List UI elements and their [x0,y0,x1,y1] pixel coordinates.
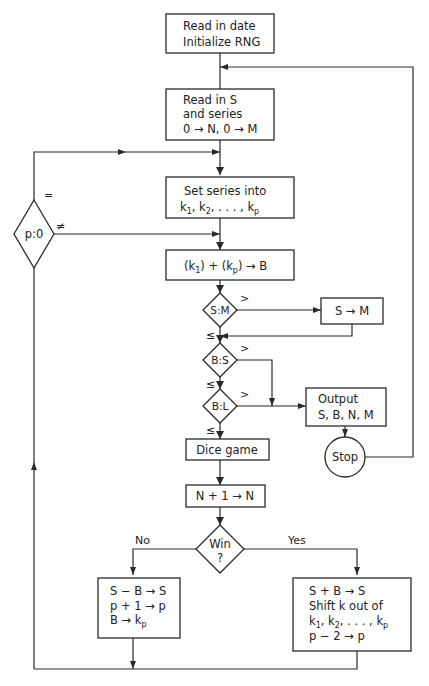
output-box: Output S, B, N, M [306,388,386,426]
svg-text:Read in date: Read in date [183,19,256,33]
dice-game-box: Dice game [186,439,269,460]
stop-terminal: Stop [325,437,365,477]
bet-box: (k1) + (kp) → B [166,250,294,280]
svg-text:B:S: B:S [211,354,229,366]
svg-text:B → kp: B → kp [110,613,147,629]
svg-text:Read in S: Read in S [183,93,237,107]
svg-text:>: > [240,342,249,355]
svg-text:S:M: S:M [210,304,229,316]
svg-text:k1, k2, . . . , kp: k1, k2, . . . , kp [309,614,388,630]
svg-text:p + 1 → p: p + 1 → p [110,599,166,613]
svg-text:S − B → S: S − B → S [110,584,166,598]
svg-text:>: > [240,292,249,305]
p-test-diamond: p:0 = ≠ [14,189,65,268]
svg-text:Yes: Yes [287,534,306,547]
svg-text:S + B → S: S + B → S [309,584,365,598]
svg-text:=: = [44,189,53,202]
svg-text:≤: ≤ [206,329,215,342]
s-to-m-box: S → M [321,298,383,324]
svg-text:0 → N, 0 → M: 0 → N, 0 → M [183,122,257,136]
svg-text:≠: ≠ [56,220,65,233]
svg-text:p − 2 → p: p − 2 → p [309,629,365,643]
svg-text:p:0: p:0 [25,227,44,241]
svg-text:Stop: Stop [332,450,358,464]
svg-text:Initialize RNG: Initialize RNG [183,35,260,49]
svg-text:B:L: B:L [212,400,229,412]
svg-text:and series: and series [183,107,242,121]
svg-text:Win: Win [209,537,231,551]
set-series-box: Set series into k1, k2, . . . , kp [166,177,294,218]
svg-text:Dice game: Dice game [196,443,258,457]
svg-text:No: No [135,534,150,547]
svg-text:Set series into: Set series into [184,184,266,198]
svg-text:≤: ≤ [206,378,215,391]
flowchart: Read in date Initialize RNG Read in S an… [0,0,429,686]
b-s-diamond: B:S > ≤ [203,342,249,391]
b-l-diamond: B:L > ≤ [203,388,249,437]
increment-n-box: N + 1 → N [186,485,265,507]
svg-text:S → M: S → M [335,304,369,318]
lose-update-box: S − B → S p + 1 → p B → kp [98,578,180,638]
win-update-box: S + B → S Shift k out of k1, k2, . . . ,… [293,578,411,651]
svg-text:N + 1 → N: N + 1 → N [196,489,254,503]
start-box: Read in date Initialize RNG [166,14,274,53]
series-k-list: k1, k2, . . . , kp [180,200,259,216]
read-box: Read in S and series 0 → N, 0 → M [166,89,274,140]
svg-text:≤: ≤ [206,424,215,437]
svg-text:Output: Output [318,392,358,406]
svg-text:S, B, N, M: S, B, N, M [318,408,374,422]
svg-text:Shift k out of: Shift k out of [309,599,384,613]
svg-text:>: > [240,388,249,401]
svg-text:?: ? [217,551,223,565]
